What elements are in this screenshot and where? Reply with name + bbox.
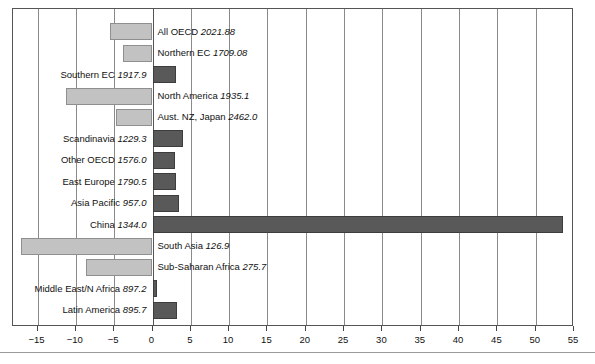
bar-label-name: Southern EC (60, 69, 114, 80)
axis-tick (573, 326, 574, 331)
axis-tick-label: 15 (261, 334, 272, 345)
bar-label-value: 897.2 (123, 283, 147, 294)
bar-label: Scandinavia 1229.3 (63, 134, 146, 144)
bar (153, 302, 178, 319)
bar-label-name: Sub-Saharan Africa (158, 261, 240, 272)
gridline (267, 9, 268, 325)
bar-label-value: 1917.9 (117, 69, 146, 80)
axis-tick (37, 326, 38, 331)
axis-tick-label: 20 (300, 334, 311, 345)
bar-label: Southern EC 1917.9 (60, 70, 146, 80)
bar-label-value: 957.0 (123, 197, 147, 208)
axis-tick (458, 326, 459, 331)
bar-label: North America 1935.1 (158, 91, 250, 101)
bar-label-name: China (90, 219, 115, 230)
bar-label: Latin America 895.7 (63, 305, 147, 315)
gridline (497, 9, 498, 325)
axis-tick (305, 326, 306, 331)
axis-tick (190, 326, 191, 331)
gridline (38, 9, 39, 325)
bar-label: Asia Pacific 957.0 (71, 198, 147, 208)
axis-tick-label: 50 (529, 334, 540, 345)
axis-tick (75, 326, 76, 331)
bar-label-value: 1709.08 (213, 47, 247, 58)
bar-label-name: Northern EC (158, 47, 211, 58)
bar (153, 216, 563, 233)
bar (153, 173, 177, 190)
axis-tick-label: 10 (223, 334, 234, 345)
footer-rule (0, 352, 595, 353)
bar (110, 23, 153, 40)
bar-label-value: 1935.1 (220, 90, 249, 101)
axis-tick (381, 326, 382, 331)
bar-label-value: 1576.0 (117, 154, 146, 165)
axis-tick-label: 40 (453, 334, 464, 345)
bar-label-name: Other OECD (61, 154, 115, 165)
bar (21, 238, 152, 255)
bar-label: China 1344.0 (90, 220, 147, 230)
bar-label-value: 1790.5 (117, 176, 146, 187)
axis-tick-label: 0 (149, 334, 154, 345)
axis-tick-label: 5 (187, 334, 192, 345)
bar-label-value: 2462.0 (228, 111, 257, 122)
axis-tick (535, 326, 536, 331)
bar-label-name: Aust. NZ, Japan (158, 111, 226, 122)
bar (66, 88, 153, 105)
bar (153, 66, 177, 83)
bar (153, 195, 179, 212)
axis-tick (496, 326, 497, 331)
axis-tick (152, 326, 153, 331)
bar-label: All OECD 2021.88 (158, 27, 236, 37)
plot-area: All OECD 2021.88Northern EC 1709.08South… (12, 8, 573, 326)
bar-label: Northern EC 1709.08 (158, 48, 248, 58)
gridline (306, 9, 307, 325)
bar (116, 109, 153, 126)
bar-label-value: 895.7 (123, 304, 147, 315)
bar-label-name: South Asia (158, 240, 203, 251)
bar-label-value: 126.9 (206, 240, 230, 251)
bar-label-name: East Europe (63, 176, 115, 187)
axis-tick (343, 326, 344, 331)
bar-label-name: North America (158, 90, 218, 101)
gridline (344, 9, 345, 325)
bar (123, 45, 152, 62)
axis-tick (420, 326, 421, 331)
bar-chart: All OECD 2021.88Northern EC 1709.08South… (0, 0, 595, 364)
bar-label: Aust. NZ, Japan 2462.0 (158, 112, 258, 122)
bar-label: East Europe 1790.5 (63, 177, 147, 187)
axis-tick-label: 25 (338, 334, 349, 345)
axis-tick (113, 326, 114, 331)
axis-tick-label: 55 (568, 334, 579, 345)
bar-label-name: Middle East/N Africa (35, 283, 121, 294)
gridline (421, 9, 422, 325)
axis-tick-label: 45 (491, 334, 502, 345)
bar (153, 152, 175, 169)
bar-label: Middle East/N Africa 897.2 (35, 284, 147, 294)
bar-label: Sub-Saharan Africa 275.7 (158, 262, 267, 272)
bar-label-value: 2021.88 (201, 26, 235, 37)
bar-label-value: 1344.0 (117, 219, 146, 230)
gridline (459, 9, 460, 325)
bar-label-name: Latin America (63, 304, 121, 315)
axis-tick-label: −15 (28, 334, 44, 345)
axis-tick-label: −10 (67, 334, 83, 345)
axis-tick (228, 326, 229, 331)
gridline (536, 9, 537, 325)
bar-label-value: 1229.3 (117, 133, 146, 144)
bar (86, 259, 153, 276)
axis-tick-label: −5 (108, 334, 119, 345)
bar-label-name: All OECD (158, 26, 199, 37)
bar-label-name: Asia Pacific (71, 197, 120, 208)
axis-tick (266, 326, 267, 331)
axis-tick-label: 35 (414, 334, 425, 345)
bar (153, 130, 184, 147)
gridline (382, 9, 383, 325)
bar-label-name: Scandinavia (63, 133, 115, 144)
gridline (76, 9, 77, 325)
axis-tick-label: 30 (376, 334, 387, 345)
bar-label-value: 275.7 (243, 261, 267, 272)
bar-label: South Asia 126.9 (158, 241, 230, 251)
bar (153, 280, 158, 297)
bar-label: Other OECD 1576.0 (61, 155, 147, 165)
